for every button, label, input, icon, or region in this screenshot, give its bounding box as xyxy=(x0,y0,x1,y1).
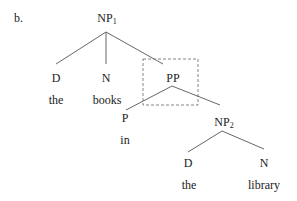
node-n1: N xyxy=(102,71,111,85)
node-n2: N xyxy=(260,156,269,170)
tree-branches xyxy=(0,0,297,201)
node-pp: PP xyxy=(166,71,179,85)
branch-pp-np2 xyxy=(172,86,220,105)
branch-np1-d xyxy=(56,32,106,64)
branch-np2-d xyxy=(188,131,222,152)
word-library: library xyxy=(248,178,280,192)
node-d2: D xyxy=(184,156,193,170)
word-the-2: the xyxy=(182,178,197,192)
node-np2-label: NP xyxy=(214,115,229,129)
syntax-tree-diagram: b. NP1 D the N books PP P in NP2 D the N… xyxy=(0,0,297,201)
node-np1-label: NP xyxy=(97,11,112,25)
branch-pp-p xyxy=(126,86,172,110)
branch-np2-n xyxy=(222,131,264,149)
word-books: books xyxy=(93,93,122,107)
node-d1: D xyxy=(52,71,61,85)
node-np2: NP2 xyxy=(214,115,233,133)
example-label: b. xyxy=(14,11,23,25)
node-np2-subscript: 2 xyxy=(230,121,234,130)
node-p: P xyxy=(122,111,129,125)
node-np1-subscript: 1 xyxy=(113,17,117,26)
word-the-1: the xyxy=(49,93,64,107)
node-np1: NP1 xyxy=(97,11,116,29)
word-in: in xyxy=(120,133,129,147)
